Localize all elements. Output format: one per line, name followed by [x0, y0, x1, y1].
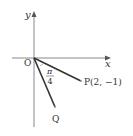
angle-numerator: π — [46, 67, 53, 76]
coordinate-diagram: y x O π 4 P(2, −1) Q — [0, 0, 133, 136]
y-axis-arrow-icon — [32, 11, 37, 17]
angle-arc — [40, 63, 44, 66]
origin-label: O — [24, 58, 31, 68]
point-p-label: P(2, −1) — [84, 77, 122, 87]
point-p-marker — [80, 80, 82, 82]
segment-op — [34, 58, 81, 81]
x-axis-label: x — [105, 58, 111, 69]
point-q-label: Q — [52, 114, 59, 124]
y-axis-label: y — [24, 9, 31, 20]
point-q-marker — [54, 106, 56, 108]
angle-denominator: 4 — [48, 77, 53, 86]
